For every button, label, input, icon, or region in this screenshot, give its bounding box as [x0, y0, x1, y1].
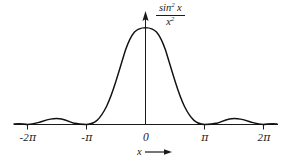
figure-sinc-squared-plot: sin2 x x2 -2π -π 0 π 2π x	[0, 0, 290, 165]
numerator-variable: x	[177, 2, 182, 13]
x-axis-label-text: x	[137, 146, 142, 157]
pi-glyph: π	[263, 131, 270, 144]
sin-token: sin	[159, 2, 171, 13]
x-tick-label-minus-pi: -π	[67, 131, 107, 144]
arrow-right-icon	[145, 148, 173, 156]
pi-glyph: π	[85, 131, 92, 144]
numerator-exponent: 2	[171, 1, 175, 9]
x-tick-label-pi: π	[185, 131, 225, 144]
x-tick-label-origin: 0	[126, 131, 166, 143]
pi-glyph: π	[29, 131, 36, 144]
x-tick-label-2pi: 2π	[244, 131, 284, 144]
fraction: sin2 x x2	[156, 3, 185, 28]
formula-annotation: sin2 x x2	[156, 3, 185, 28]
pi-glyph: π	[201, 131, 208, 144]
denominator-exponent: 2	[171, 15, 175, 23]
fraction-denominator: x2	[156, 17, 185, 28]
x-axis-label: x	[137, 146, 173, 157]
x-tick-label-minus-2pi: -2π	[8, 131, 48, 144]
fraction-numerator: sin2 x	[156, 3, 185, 14]
